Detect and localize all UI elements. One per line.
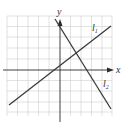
- x-axis: [3, 68, 114, 73]
- coordinate-diagram: x y l1 l2: [0, 0, 128, 127]
- line-l2-label: l2: [103, 78, 109, 90]
- x-axis-label: x: [115, 64, 121, 75]
- line-l1-label: l1: [92, 22, 98, 34]
- y-axis: [58, 19, 63, 122]
- y-axis-label: y: [56, 6, 62, 17]
- x-axis-arrow-icon: [107, 68, 114, 73]
